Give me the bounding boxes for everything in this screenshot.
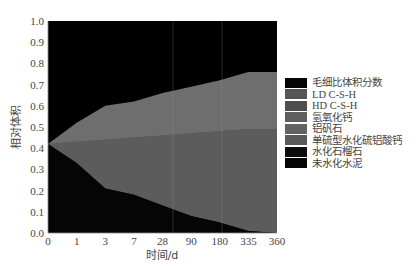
legend-swatch <box>285 147 307 157</box>
y-tick-label: 0.0 <box>30 227 44 239</box>
y-axis-title: 相对体积 <box>9 105 23 149</box>
y-tick-label: 0.9 <box>30 36 44 48</box>
legend-swatch <box>285 135 307 145</box>
legend-label: 铝矾石 <box>312 123 342 134</box>
legend-label: 氢氧化钙 <box>312 112 352 123</box>
y-tick-label: 0.5 <box>30 121 44 133</box>
legend-item: 铝矾石 <box>285 123 402 135</box>
x-tick-label: 90 <box>186 235 198 247</box>
legend-swatch <box>285 101 307 111</box>
legend-swatch <box>285 89 307 99</box>
x-tick-label: 0 <box>45 235 51 247</box>
legend-item: LD C-S-H <box>285 89 402 101</box>
legend-item: 单硫型水化硫铝酸钙 <box>285 135 402 147</box>
legend-label: 单硫型水化硫铝酸钙 <box>312 135 402 146</box>
y-axis: 0.00.10.20.30.40.50.60.70.80.91.0 <box>30 15 44 239</box>
y-tick-label: 0.6 <box>30 100 44 112</box>
y-tick-label: 0.2 <box>30 185 44 197</box>
x-tick-label: 335 <box>240 235 257 247</box>
legend-swatch <box>285 112 307 122</box>
y-tick-label: 0.8 <box>30 57 44 69</box>
x-tick-label: 360 <box>269 235 286 247</box>
x-tick-label: 180 <box>212 235 229 247</box>
y-tick-label: 0.7 <box>30 79 44 91</box>
legend-item: 水化石榴石 <box>285 146 402 158</box>
legend-item: 氢氧化钙 <box>285 112 402 124</box>
legend-swatch <box>285 158 307 168</box>
legend-item: HD C-S-H <box>285 100 402 112</box>
x-tick-label: 7 <box>131 235 137 247</box>
y-tick-label: 0.4 <box>30 142 44 154</box>
legend-swatch <box>285 124 307 134</box>
legend-item: 毛细比体积分数 <box>285 77 402 89</box>
legend: 毛细比体积分数LD C-S-HHD C-S-H氢氧化钙铝矾石单硫型水化硫铝酸钙水… <box>285 77 402 169</box>
y-tick-label: 0.1 <box>30 206 44 218</box>
x-tick-label: 28 <box>157 235 169 247</box>
legend-label: HD C-S-H <box>312 100 357 111</box>
legend-label: 未水化水泥 <box>312 158 362 169</box>
legend-label: 毛细比体积分数 <box>312 77 382 88</box>
legend-item: 未水化水泥 <box>285 158 402 170</box>
y-tick-label: 1.0 <box>30 15 44 27</box>
y-tick-label: 0.3 <box>30 163 44 175</box>
plot-area <box>48 21 277 233</box>
x-tick-label: 1 <box>74 235 80 247</box>
x-axis-title: 时间/d <box>146 249 179 262</box>
legend-label: LD C-S-H <box>312 89 356 100</box>
x-tick-label: 3 <box>103 235 109 247</box>
x-axis: 01372890180335360 <box>45 235 286 247</box>
legend-swatch <box>285 78 307 88</box>
legend-label: 水化石榴石 <box>312 146 362 157</box>
